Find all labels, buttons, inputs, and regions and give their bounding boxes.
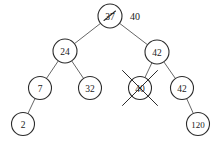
node-120: 120 [187, 113, 210, 136]
node-24-label: 24 [60, 47, 70, 57]
node-42-right-label: 42 [152, 48, 162, 58]
node-42-leaf-parent: 42 [171, 77, 194, 100]
node-2-label: 2 [21, 120, 26, 130]
node-7: 7 [29, 77, 52, 100]
edge-37-42 [119, 23, 148, 45]
node-32: 32 [79, 77, 102, 100]
edge-42-42 [164, 61, 176, 79]
node-32-label: 32 [85, 84, 95, 94]
node-7-label: 7 [38, 84, 43, 94]
edge-37-24 [74, 23, 101, 44]
node-42-leaf-parent-label: 42 [177, 84, 187, 94]
node-24: 24 [53, 39, 77, 63]
edge-42-40 [145, 62, 152, 78]
tree-canvas: 37244273240422120 40 [0, 0, 220, 144]
node-2: 2 [12, 113, 35, 136]
edges-layer [28, 23, 194, 114]
binary-search-tree-diagram: 37244273240422120 40 [0, 0, 220, 144]
nodes-layer: 37244273240422120 [12, 4, 210, 136]
edge-42-120 [186, 98, 193, 114]
edge-24-32 [71, 61, 83, 79]
edge-24-7 [46, 61, 58, 79]
node-120-label: 120 [191, 120, 205, 130]
annotations-layer: 40 [130, 11, 140, 22]
node-42-right: 42 [145, 40, 169, 64]
annotation-replacement-value-40: 40 [130, 11, 140, 22]
edge-7-2 [28, 98, 36, 114]
